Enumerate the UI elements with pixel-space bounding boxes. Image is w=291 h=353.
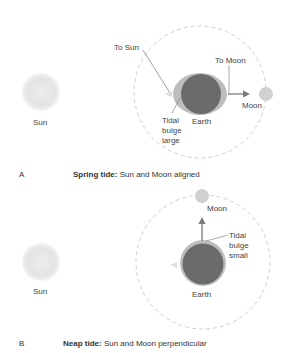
tidal-label-b-3: small — [229, 251, 248, 260]
to-moon-label: To Moon — [215, 56, 246, 65]
sun-b — [22, 243, 60, 281]
moon-b — [195, 189, 209, 203]
panel-b-caption: Neap tide: Sun and Moon perpendicular — [63, 339, 207, 348]
sun-label-b: Sun — [33, 287, 47, 296]
to-sun-pointer — [143, 50, 170, 93]
tidal-label-a-1: Tidal — [162, 116, 179, 125]
earth-b — [183, 244, 224, 285]
to-moon-arrowhead — [243, 91, 250, 98]
panel-a-caption: Spring tide: Sun and Moon aligned — [73, 170, 200, 179]
panel-b-caption-text: Sun and Moon perpendicular — [102, 339, 207, 348]
panel-a-graphic — [22, 26, 273, 158]
earth-label-a: Earth — [192, 117, 211, 126]
tidal-label-a-3: large — [162, 136, 180, 145]
tidal-label-a-2: bulge — [162, 126, 182, 135]
sun-a — [22, 73, 60, 111]
moon-label-a: Moon — [242, 101, 262, 110]
panel-a-caption-title: Spring tide: — [73, 170, 117, 179]
sun-direction-marker-b — [170, 262, 177, 268]
panel-a-caption-text: Sun and Moon aligned — [117, 170, 199, 179]
panel-b-caption-title: Neap tide: — [63, 339, 102, 348]
tidal-small-pointer — [206, 235, 228, 241]
panel-a-letter: A — [19, 170, 24, 179]
to-sun-arrowhead — [165, 91, 172, 97]
moon-a — [259, 87, 273, 101]
sun-label-a: Sun — [33, 118, 47, 127]
moon-label-b: Moon — [207, 204, 227, 213]
earth-a — [181, 74, 221, 114]
panel-b-letter: B — [19, 339, 24, 348]
tidal-label-b-2: bulge — [229, 241, 249, 250]
tidal-label-b-1: Tidal — [229, 231, 246, 240]
to-moon-arrowhead-b — [199, 217, 206, 224]
earth-label-b: Earth — [192, 290, 211, 299]
to-sun-label: To Sun — [114, 43, 139, 52]
